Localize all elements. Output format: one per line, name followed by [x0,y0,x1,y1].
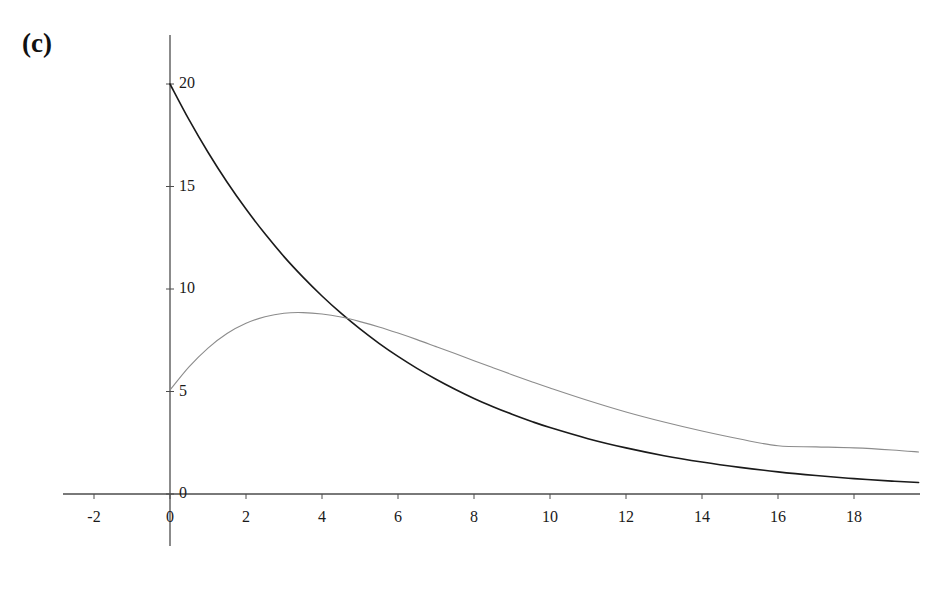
y-tick-label: 10 [179,279,195,297]
y-tick-label: 20 [179,74,195,92]
chart-series-line-decaying-curve [170,84,919,483]
x-tick-label: 12 [618,508,634,526]
x-tick-label: 16 [770,508,786,526]
x-tick-label: 10 [542,508,558,526]
x-tick-label: 4 [318,508,326,526]
x-tick-label: 18 [846,508,862,526]
figure-panel-c: (c) -202468101214161805101520 [0,0,951,589]
series-group [170,84,919,483]
x-tick-label: -2 [87,508,100,526]
y-tick-label: 5 [179,382,187,400]
y-tick-label: 0 [179,484,187,502]
y-tick-label: 15 [179,177,195,195]
x-tick-label: 0 [166,508,174,526]
chart-plot-area [0,0,951,589]
chart-series-line-rise-and-decay-curve [170,313,919,452]
x-tick-label: 6 [394,508,402,526]
x-tick-label: 14 [694,508,710,526]
tick-marks-group [94,84,854,499]
x-tick-label: 2 [242,508,250,526]
x-tick-label: 8 [470,508,478,526]
